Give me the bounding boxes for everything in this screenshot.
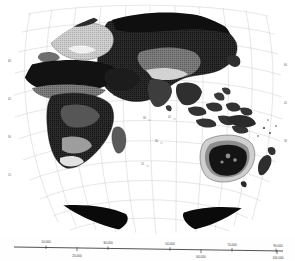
axis-tick-label-lower-1: 60.000 xyxy=(196,255,206,259)
map-canvas: 15 30 45 60 75 30 45 30 15 60 45 30 15 6… xyxy=(0,0,295,237)
map-svg: 15 30 45 60 75 30 45 30 15 60 45 30 15 6… xyxy=(0,0,295,237)
axis-line xyxy=(14,247,283,251)
axis-tick-label-upper-0: 10.000 xyxy=(41,240,51,244)
axis-tick-label-upper-3: 70.000 xyxy=(227,243,237,247)
axis-labels-lower: 20.000 60.000 100.000 xyxy=(72,254,284,260)
axis-tick-label-upper-2: 50.000 xyxy=(165,242,175,246)
bottom-coordinate-axis: 10.000 30.000 50.000 70.000 90.000 20.00… xyxy=(0,236,295,261)
axis-tick-label-lower-2: 100.000 xyxy=(272,256,283,260)
axis-tick-label-upper-1: 30.000 xyxy=(103,241,113,245)
world-map-figure: 15 30 45 60 75 30 45 30 15 60 45 30 15 6… xyxy=(0,0,295,261)
axis-tick-label-upper-4: 90.000 xyxy=(273,244,283,248)
axis-labels-upper: 10.000 30.000 50.000 70.000 90.000 xyxy=(41,240,283,247)
axis-tick-label-lower-0: 20.000 xyxy=(72,254,82,258)
axis-svg: 10.000 30.000 50.000 70.000 90.000 20.00… xyxy=(0,236,295,261)
